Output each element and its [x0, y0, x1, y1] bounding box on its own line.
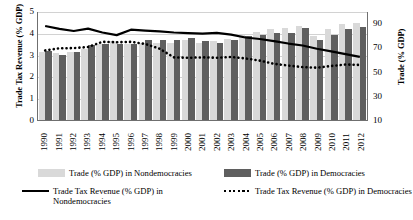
legend-swatch-bar-nondemocracies: [38, 169, 65, 177]
y-axis-right-tick-30: 30: [373, 91, 389, 101]
x-axis-label-1997: 1997: [140, 133, 150, 151]
x-axis-tick-2011: 2011: [339, 122, 353, 166]
x-axis-label-2004: 2004: [241, 133, 251, 151]
x-axis-tick-1998: 1998: [152, 122, 166, 166]
x-axis-tick-1992: 1992: [66, 122, 80, 166]
chart-legend: Trade (% GDP) in Nondemocracies Trade Ta…: [0, 168, 413, 220]
legend-item-bar-nondemocracies: Trade (% GDP) in Nondemocracies: [38, 168, 228, 178]
y-axis-right-tick-90: 90: [373, 18, 389, 28]
legend-label-line-democracies: Trade Tax Revenue (% GDP) in Democracies: [255, 186, 412, 196]
y-axis-left-tick-3: 3: [20, 50, 34, 60]
y-axis-right-title: Trade (% GDP): [396, 1, 406, 113]
x-axis-label-1991: 1991: [54, 133, 64, 151]
x-axis-tick-1999: 1999: [167, 122, 181, 166]
y-axis-left-tick-5: 5: [20, 6, 34, 16]
x-axis-tick-1991: 1991: [51, 122, 65, 166]
x-axis-label-1995: 1995: [111, 133, 121, 151]
x-axis-tick-2001: 2001: [195, 122, 209, 166]
y-axis-right-tick-10: 10: [373, 115, 389, 125]
x-axis-tick-2010: 2010: [325, 122, 339, 166]
legend-item-line-democracies: Trade Tax Revenue (% GDP) in Democracies: [224, 186, 413, 196]
x-axis-label-2000: 2000: [183, 133, 193, 151]
x-axis-label-2001: 2001: [197, 133, 207, 151]
x-axis-tick-2002: 2002: [210, 122, 224, 166]
y-axis-left-tick-4: 4: [20, 28, 34, 38]
x-axis-label-2007: 2007: [284, 133, 294, 151]
x-axis-tick-1997: 1997: [138, 122, 152, 166]
x-axis-tick-2005: 2005: [253, 122, 267, 166]
x-axis-label-2006: 2006: [269, 133, 279, 151]
x-axis-label-1994: 1994: [97, 133, 107, 151]
x-axis-tick-2004: 2004: [238, 122, 252, 166]
y-axis-right-tick-50: 50: [373, 67, 389, 77]
x-axis-label-2009: 2009: [313, 133, 323, 151]
x-axis-label-2005: 2005: [255, 133, 265, 151]
x-axis-label-1999: 1999: [169, 133, 179, 151]
x-axis-labels: 1990199119921993199419951996199719981999…: [37, 122, 368, 166]
x-axis-label-2003: 2003: [226, 133, 236, 151]
x-axis-tick-1994: 1994: [95, 122, 109, 166]
x-axis-label-1990: 1990: [39, 133, 49, 151]
x-axis-label-2008: 2008: [298, 133, 308, 151]
chart-container: Trade Tax Revenue (% GDP) Trade (% GDP) …: [0, 0, 413, 220]
x-axis-tick-2009: 2009: [310, 122, 324, 166]
x-axis-tick-2008: 2008: [296, 122, 310, 166]
plot-area: [37, 12, 368, 121]
line-democracies: [45, 42, 360, 68]
legend-label-bar-nondemocracies: Trade (% GDP) in Nondemocracies: [69, 168, 192, 178]
x-axis-label-1993: 1993: [82, 133, 92, 151]
legend-label-bar-democracies: Trade (% GDP) in Democracies: [255, 168, 365, 178]
x-axis-tick-1993: 1993: [80, 122, 94, 166]
legend-swatch-bar-democracies: [224, 169, 251, 177]
x-axis-tick-2012: 2012: [354, 122, 368, 166]
x-axis-label-1998: 1998: [154, 133, 164, 151]
x-axis-label-2002: 2002: [212, 133, 222, 151]
line-series-group: [38, 12, 367, 120]
x-axis-label-2011: 2011: [341, 133, 351, 151]
legend-label-line-nondemocracies: Trade Tax Revenue (% GDP) in Nondemocrac…: [53, 186, 217, 206]
y-axis-left-tick-1: 1: [20, 93, 34, 103]
x-axis-label-1992: 1992: [68, 133, 78, 151]
x-axis-tick-1996: 1996: [123, 122, 137, 166]
x-axis-tick-1995: 1995: [109, 122, 123, 166]
x-axis-tick-2003: 2003: [224, 122, 238, 166]
y-axis-right-tick-70: 70: [373, 42, 389, 52]
x-axis-tick-2000: 2000: [181, 122, 195, 166]
legend-item-bar-democracies: Trade (% GDP) in Democracies: [224, 168, 413, 178]
x-axis-tick-2007: 2007: [282, 122, 296, 166]
y-axis-left-tick-2: 2: [20, 71, 34, 81]
x-axis-tick-1990: 1990: [37, 122, 51, 166]
legend-swatch-line-nondemocracies: [22, 187, 49, 195]
x-axis-label-2010: 2010: [327, 133, 337, 151]
y-axis-left-tick-0: 0: [20, 115, 34, 125]
line-nondemocracies: [45, 26, 360, 57]
legend-item-line-nondemocracies: Trade Tax Revenue (% GDP) in Nondemocrac…: [22, 186, 217, 206]
x-axis-tick-2006: 2006: [267, 122, 281, 166]
x-axis-label-1996: 1996: [126, 133, 136, 151]
x-axis-label-2012: 2012: [356, 133, 366, 151]
legend-swatch-line-democracies: [224, 187, 251, 195]
